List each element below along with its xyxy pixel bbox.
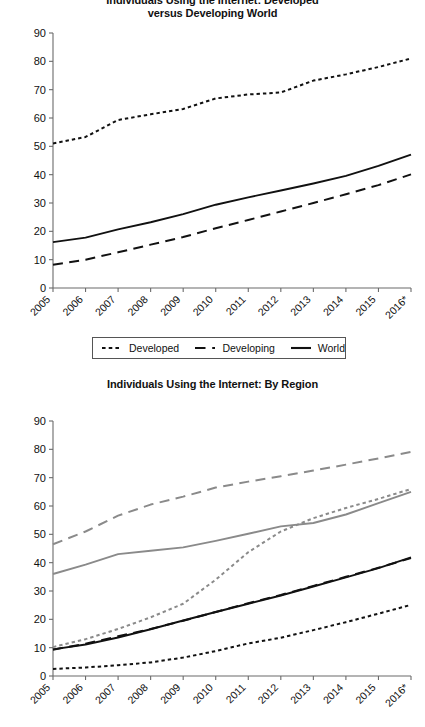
svg-text:2008: 2008 <box>125 293 150 318</box>
svg-text:10: 10 <box>34 642 46 654</box>
svg-text:80: 80 <box>34 443 46 455</box>
svg-text:20: 20 <box>34 613 46 625</box>
svg-text:2009: 2009 <box>158 681 183 706</box>
chart2-title: Individuals Using the Internet: By Regio… <box>0 378 425 391</box>
svg-text:2007: 2007 <box>93 293 118 318</box>
svg-text:2005: 2005 <box>27 293 52 318</box>
svg-text:2012: 2012 <box>255 681 280 706</box>
chart-by-region: Individuals Using the Internet: By Regio… <box>0 365 425 727</box>
svg-text:2005: 2005 <box>27 681 52 706</box>
svg-text:10: 10 <box>34 254 46 266</box>
svg-text:2011: 2011 <box>223 293 248 318</box>
chart1-legend: DevelopedDevelopingWorld <box>92 337 346 359</box>
svg-text:60: 60 <box>34 500 46 512</box>
legend-label: Developed <box>129 343 179 354</box>
svg-text:80: 80 <box>34 55 46 67</box>
chart2-plot: 0102030405060708090200520062007200820092… <box>0 393 425 713</box>
svg-text:2009: 2009 <box>158 293 183 318</box>
svg-text:2010: 2010 <box>190 293 215 318</box>
svg-text:2015: 2015 <box>353 293 378 318</box>
svg-text:30: 30 <box>34 585 46 597</box>
svg-text:0: 0 <box>40 670 46 682</box>
chart1-plot: 0102030405060708090200520062007200820092… <box>0 0 425 330</box>
legend-line-solid-icon <box>290 344 312 352</box>
svg-text:90: 90 <box>34 27 46 39</box>
svg-text:2015: 2015 <box>353 681 378 706</box>
svg-text:40: 40 <box>34 557 46 569</box>
svg-text:2014: 2014 <box>320 681 345 706</box>
svg-text:2012: 2012 <box>255 293 280 318</box>
chart-developed-vs-developing: Individuals Using the Internet: Develope… <box>0 0 425 365</box>
svg-text:60: 60 <box>34 112 46 124</box>
legend-label: World <box>318 343 345 354</box>
svg-text:2007: 2007 <box>93 681 118 706</box>
svg-text:70: 70 <box>34 84 46 96</box>
svg-text:40: 40 <box>34 169 46 181</box>
legend-item-world: World <box>290 343 345 354</box>
svg-text:2008: 2008 <box>125 681 150 706</box>
svg-text:2006: 2006 <box>60 681 85 706</box>
svg-text:50: 50 <box>34 528 46 540</box>
legend-item-developing: Developing <box>194 343 289 354</box>
svg-text:2016*: 2016* <box>383 681 411 709</box>
svg-text:50: 50 <box>34 140 46 152</box>
legend-label: Developing <box>222 343 275 354</box>
svg-text:70: 70 <box>34 472 46 484</box>
legend-line-dashed-icon <box>194 344 216 352</box>
legend-line-dotted-icon <box>101 344 123 352</box>
svg-text:2016*: 2016* <box>383 293 411 321</box>
legend-item-developed: Developed <box>101 343 194 354</box>
svg-text:2013: 2013 <box>288 293 313 318</box>
svg-text:20: 20 <box>34 225 46 237</box>
svg-text:2006: 2006 <box>60 293 85 318</box>
chart1-legend-row: DevelopedDevelopingWorld <box>93 338 345 358</box>
svg-text:30: 30 <box>34 197 46 209</box>
svg-text:2013: 2013 <box>288 681 313 706</box>
svg-text:0: 0 <box>40 282 46 294</box>
svg-text:90: 90 <box>34 415 46 427</box>
svg-text:2011: 2011 <box>223 681 248 706</box>
figure-page: Individuals Using the Internet: Develope… <box>0 0 425 727</box>
svg-text:2014: 2014 <box>320 293 345 318</box>
svg-text:2010: 2010 <box>190 681 215 706</box>
